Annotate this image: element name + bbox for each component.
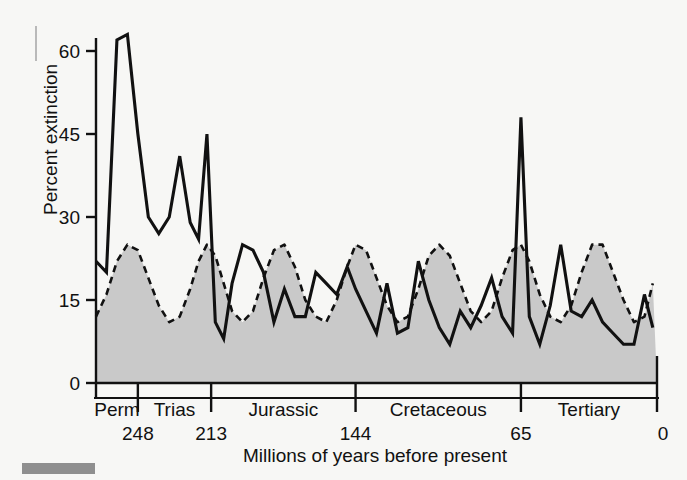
boundary-age-label: 248 [122,423,154,444]
y-tick-label: 30 [59,207,80,228]
y-tick-label: 0 [69,373,80,394]
y-tick-label: 60 [59,41,80,62]
boundary-age-label: 213 [195,423,227,444]
y-axis-title: Percent extinction [40,64,61,215]
boundary-age-label: 65 [510,423,531,444]
x-axis-title: Millions of years before present [243,445,508,466]
y-tick-label: 15 [59,290,80,311]
extinction-figure: 015304560 Percent extinction Millions of… [0,0,687,480]
y-axis-ticks: 015304560 [59,41,96,394]
chart-canvas: 015304560 Percent extinction Millions of… [0,0,687,480]
period-label-cretaceous: Cretaceous [390,399,487,420]
y-tick-label: 45 [59,124,80,145]
boundary-age-labels: 248213144650 [122,423,668,444]
period-label-tertiary: Tertiary [558,399,621,420]
period-label-jurassic: Jurassic [249,399,319,420]
period-label-perm: Perm [94,399,139,420]
period-label-trias: Trias [154,399,196,420]
boundary-age-label: 144 [340,423,372,444]
boundary-age-label: 0 [658,423,669,444]
period-labels: PermTriasJurassicCretaceousTertiary [94,399,620,420]
